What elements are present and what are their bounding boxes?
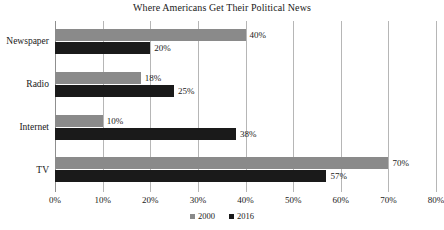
legend-item-2000[interactable]: 2000 — [190, 210, 215, 222]
legend-swatch-icon — [190, 214, 195, 219]
x-tick-label: 80% — [428, 194, 444, 206]
x-tick-label: 50% — [285, 194, 302, 206]
bar — [55, 170, 326, 182]
x-tick-label: 70% — [380, 194, 397, 206]
bar-value-label: 18% — [145, 72, 162, 84]
x-tick-label: 30% — [190, 194, 207, 206]
bar — [55, 128, 236, 140]
bar-group: 18%25% — [55, 64, 436, 107]
bar-value-label: 10% — [107, 115, 124, 127]
bar-value-label: 70% — [392, 157, 409, 169]
x-tick-label: 20% — [142, 194, 159, 206]
category-label-tv: TV — [36, 165, 49, 176]
x-axis-tick-labels: 0%10%20%30%40%50%60%70%80% — [55, 194, 436, 208]
bar-chart: Where Americans Get Their Political News… — [0, 0, 444, 230]
legend-swatch-icon — [229, 214, 234, 219]
bar — [55, 85, 174, 97]
bar — [55, 29, 246, 41]
bar-value-label: 25% — [178, 85, 195, 97]
gridline-80pct — [436, 21, 437, 192]
chart-title: Where Americans Get Their Political News — [0, 2, 444, 13]
bar-group: 10%38% — [55, 107, 436, 150]
category-label-newspaper: Newspaper — [6, 36, 49, 47]
y-axis-category-labels: NewspaperRadioInternetTV — [0, 21, 52, 192]
bar-value-label: 38% — [240, 128, 257, 140]
category-label-radio: Radio — [26, 79, 49, 90]
category-label-internet: Internet — [19, 122, 49, 133]
legend-label: 2000 — [198, 211, 215, 222]
legend-label: 2016 — [237, 211, 254, 222]
legend-item-2016[interactable]: 2016 — [229, 210, 254, 222]
bar-value-label: 20% — [154, 42, 171, 54]
plot-area: 40%20%18%25%10%38%70%57% — [55, 21, 436, 192]
x-tick-label: 10% — [94, 194, 111, 206]
x-tick-label: 0% — [49, 194, 61, 206]
chart-legend: 20002016 — [0, 210, 444, 222]
bars-layer: 40%20%18%25%10%38%70%57% — [55, 21, 436, 192]
bar — [55, 72, 141, 84]
bar-value-label: 40% — [250, 29, 267, 41]
x-tick-label: 60% — [333, 194, 350, 206]
bar-group: 40%20% — [55, 21, 436, 64]
bar-value-label: 57% — [330, 170, 347, 182]
x-tick-label: 40% — [237, 194, 254, 206]
bar-group: 70%57% — [55, 149, 436, 192]
bar — [55, 157, 388, 169]
bar — [55, 42, 150, 54]
bar — [55, 115, 103, 127]
